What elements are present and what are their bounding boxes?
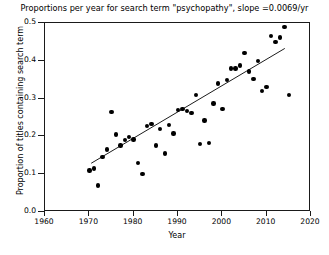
x-tick-label: 2000 [201,217,241,226]
chart-figure: Proportions per year for search term "ps… [0,0,329,255]
y-axis-label: Proportion of titles containing search t… [16,11,25,211]
y-tick-mark [38,98,44,99]
chart-title: Proportions per year for search term "ps… [0,3,329,14]
x-tick-mark [133,211,134,216]
x-tick-mark [177,211,178,216]
x-tick-mark [221,211,222,216]
y-tick-mark [38,173,44,174]
y-tick-label: 0.0 [24,207,36,215]
x-tick-mark [266,211,267,216]
x-tick-mark [88,211,89,216]
x-tick-label: 1970 [68,217,108,226]
x-tick-mark [310,211,311,216]
y-tick-mark [38,60,44,61]
regression-trendline [45,23,309,210]
y-tick-label: 0.3 [24,94,36,102]
y-tick-label: 0.2 [24,131,36,139]
plot-area [44,22,310,211]
x-axis-label: Year [44,231,310,240]
x-tick-label: 2020 [290,217,329,226]
y-tick-mark [38,135,44,136]
x-tick-label: 1960 [24,217,64,226]
y-tick-label: 0.5 [24,18,36,26]
y-tick-label: 0.4 [24,56,36,64]
x-tick-label: 2010 [246,217,286,226]
y-tick-label: 0.1 [24,169,36,177]
x-tick-mark [44,211,45,216]
x-tick-label: 1990 [157,217,197,226]
x-tick-label: 1980 [113,217,153,226]
y-tick-mark [38,22,44,23]
